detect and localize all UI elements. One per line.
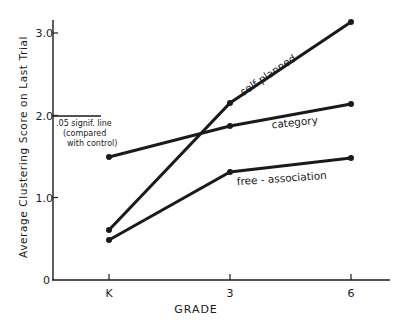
x-tick-label: 6 <box>348 287 355 300</box>
significance-note: (compared <box>63 129 106 138</box>
x-tick-label: 3 <box>227 287 234 300</box>
series-free-association <box>106 155 354 243</box>
x-tick-label: K <box>105 287 113 300</box>
y-tick-label: 1.0 <box>36 192 54 205</box>
series-label-self-planned: self planned <box>238 52 298 98</box>
y-tick-label: 0 <box>43 274 50 287</box>
significance-note: .05 signif. line <box>56 119 112 128</box>
line-chart: 0 1.0 2.0 3.0 K 3 6 GRADE Average Cluste… <box>0 0 409 324</box>
y-tick-label: 3.0 <box>36 27 54 40</box>
significance-note: with control) <box>67 139 117 148</box>
series-category <box>106 101 354 160</box>
y-tick-label: 2.0 <box>36 110 54 123</box>
y-ticks <box>53 33 58 198</box>
x-axis-title: GRADE <box>174 303 218 316</box>
y-axis-title: Average Clustering Score on Last Trial <box>17 36 29 258</box>
x-ticks <box>109 274 351 280</box>
series-label-free-association: free - association <box>236 169 327 187</box>
